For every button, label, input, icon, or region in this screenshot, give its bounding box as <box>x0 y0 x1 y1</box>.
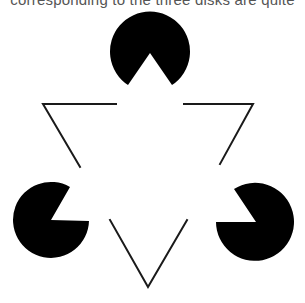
top-pacman-disk <box>110 12 190 85</box>
right-pacman-disk <box>216 183 294 261</box>
outline-bottom-vertex <box>110 220 187 287</box>
left-pacman-disk <box>13 182 89 258</box>
outline-triangle <box>43 104 253 287</box>
outline-right-corner <box>184 104 253 164</box>
outline-left-corner <box>43 104 116 167</box>
kanizsa-triangle-figure <box>0 0 305 303</box>
